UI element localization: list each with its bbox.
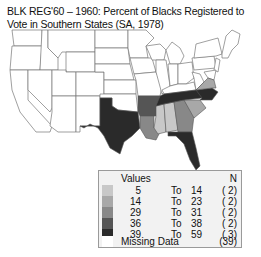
state-ohio [178,62,194,84]
legend-row: 36 To 38 ( 2) [99,218,241,229]
legend-to: To [171,185,182,196]
legend-row: 14 To 23 ( 2) [99,196,241,207]
state-michigan [166,42,184,64]
state-indiana [168,64,178,86]
state-new-england [222,30,240,58]
legend-swatch-missing [102,236,113,247]
legend-swatch-1 [102,185,113,196]
state-iowa [130,58,156,74]
state-utah [52,70,76,96]
legend-count: ( 2) [222,196,237,207]
legend-low: 5 [135,185,141,196]
legend-swatch-3 [102,207,113,218]
legend-values-header: Values [121,173,151,184]
legend-swatch-2 [102,196,113,207]
legend-swatch-4 [102,218,113,229]
legend-high: 38 [191,218,202,229]
state-wyoming [66,52,95,72]
us-choropleth-map [0,28,261,178]
state-colorado [76,72,104,96]
legend-high: 31 [191,207,202,218]
legend-to: To [171,207,182,218]
legend-count: ( 2) [222,185,237,196]
legend-row: 5 To 14 ( 2) [99,185,241,196]
legend-n-header: N [230,173,237,184]
map-legend: Values N 5 To 14 ( 2) 14 To 23 ( 2) 29 T… [98,170,242,248]
legend-low: 29 [130,207,141,218]
legend-high: 23 [191,196,202,207]
legend-low: 36 [130,218,141,229]
state-arizona [50,96,76,132]
state-florida [168,132,200,170]
legend-to: To [171,196,182,207]
state-north-dakota [95,30,128,48]
legend-count: ( 2) [222,218,237,229]
legend-row: 29 To 31 ( 2) [99,207,241,218]
state-washington [12,30,42,46]
state-kansas [104,80,136,94]
state-oregon [10,46,42,70]
state-wisconsin [146,44,166,60]
legend-row-missing: Missing Data (39) [99,236,241,247]
state-south-dakota [95,48,130,64]
legend-low: 14 [130,196,141,207]
legend-count: ( 2) [222,207,237,218]
legend-to: To [171,218,182,229]
legend-missing-count: (39) [219,236,237,247]
legend-high: 14 [191,185,202,196]
legend-missing-label: Missing Data [121,236,179,247]
state-new-york [194,38,222,58]
